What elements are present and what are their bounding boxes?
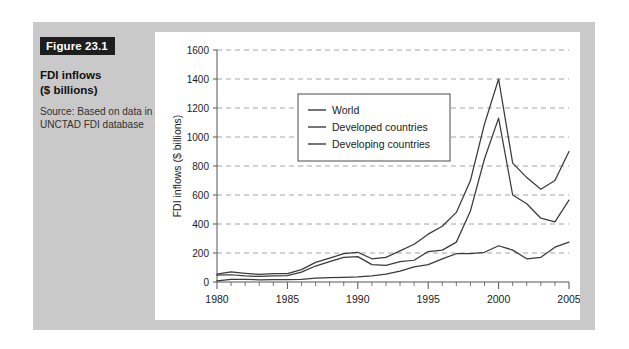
x-axis-tick-label: 1990 — [346, 293, 370, 305]
legend-label-world: World — [332, 104, 359, 116]
y-axis-tick-label: 800 — [192, 161, 209, 172]
x-axis-tick-label: 2000 — [487, 293, 511, 305]
x-axis-tick-label: 1980 — [205, 293, 229, 305]
chart-legend: WorldDeveloped countriesDeveloping count… — [298, 94, 450, 161]
y-axis-tick-labels: 02004006008001000120014001600 — [187, 45, 210, 288]
chart-card: 02004006008001000120014001600 1980198519… — [155, 32, 580, 320]
legend-label-developing-countries: Developing countries — [332, 138, 430, 150]
x-axis-tick-label: 2005 — [557, 293, 580, 305]
figure-title-line-1: FDI inflows — [40, 68, 160, 83]
y-axis-tick-label: 600 — [192, 190, 209, 201]
y-axis-tick-label: 1600 — [187, 45, 210, 56]
y-axis-tick-label: 200 — [192, 248, 209, 259]
x-axis-tick-label: 1995 — [417, 293, 441, 305]
x-axis-tick-label: 1985 — [276, 293, 300, 305]
figure-page: Figure 23.1 FDI inflows ($ billions) Sou… — [0, 0, 629, 349]
x-axis-tick-labels: 198019851990199520002005 — [205, 293, 580, 305]
figure-caption-block: Figure 23.1 FDI inflows ($ billions) Sou… — [40, 36, 160, 131]
series-line-developing-countries — [217, 242, 569, 281]
y-axis-title: FDI inflows ($ billions) — [171, 115, 183, 218]
line-chart: 02004006008001000120014001600 1980198519… — [155, 32, 580, 320]
legend-label-developed-countries: Developed countries — [332, 121, 428, 133]
y-axis-title-text: FDI inflows ($ billions) — [171, 115, 183, 218]
y-axis-tick-label: 0 — [203, 277, 209, 288]
y-axis-tick-label: 1000 — [187, 132, 210, 143]
figure-number-badge: Figure 23.1 — [40, 37, 115, 55]
figure-title-line-2: ($ billions) — [40, 83, 160, 98]
y-axis-tick-label: 400 — [192, 219, 209, 230]
y-axis-tick-label: 1400 — [187, 74, 210, 85]
figure-source-note: Source: Based on data in UNCTAD FDI data… — [40, 105, 160, 131]
y-axis-tick-label: 1200 — [187, 103, 210, 114]
figure-title: FDI inflows ($ billions) — [40, 68, 160, 97]
